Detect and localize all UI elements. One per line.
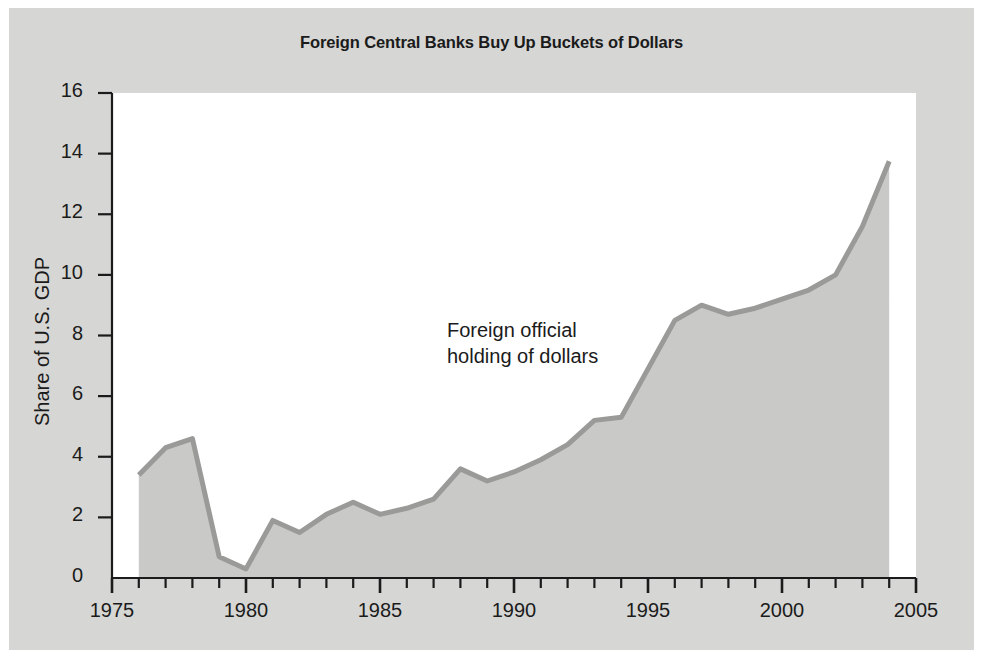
- x-tick-label: 2000: [737, 599, 827, 622]
- x-tick-label: 1985: [335, 599, 425, 622]
- x-tick-label: 1995: [603, 599, 693, 622]
- annotation-line-1: Foreign official: [447, 317, 598, 343]
- plot-area: Share of U.S. GDP 0246810121416 19751980…: [0, 0, 983, 658]
- x-axis-major-ticks: [112, 578, 916, 593]
- series-annotation: Foreign official holding of dollars: [447, 317, 598, 370]
- y-tick-label: 0: [37, 564, 83, 587]
- y-tick-label: 12: [37, 200, 83, 223]
- y-tick-label: 14: [37, 140, 83, 163]
- x-tick-label: 2005: [871, 599, 961, 622]
- y-tick-label: 8: [37, 322, 83, 345]
- x-tick-label: 1975: [67, 599, 157, 622]
- x-tick-label: 1980: [201, 599, 291, 622]
- y-tick-label: 2: [37, 503, 83, 526]
- y-tick-label: 6: [37, 382, 83, 405]
- annotation-line-2: holding of dollars: [447, 343, 598, 369]
- chart-figure: Foreign Central Banks Buy Up Buckets of …: [0, 0, 983, 658]
- x-tick-label: 1990: [469, 599, 559, 622]
- y-axis-ticks: [98, 93, 112, 517]
- y-tick-label: 16: [37, 79, 83, 102]
- y-tick-label: 4: [37, 443, 83, 466]
- y-tick-label: 10: [37, 261, 83, 284]
